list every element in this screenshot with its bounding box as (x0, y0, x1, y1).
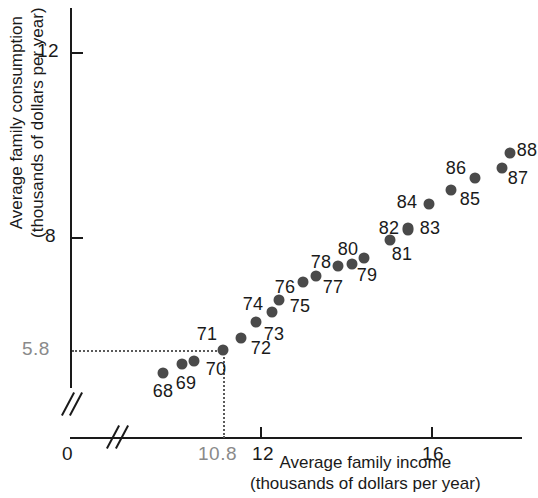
data-point-label-73: 73 (264, 324, 285, 345)
data-point-label-85: 85 (460, 189, 481, 210)
data-point-76 (298, 277, 309, 288)
data-point-83 (403, 223, 414, 234)
data-point-74 (267, 307, 278, 318)
x-axis-title-line1: Average family income (250, 452, 481, 473)
data-point-label-83: 83 (420, 218, 441, 239)
data-point-label-84: 84 (397, 192, 418, 213)
data-point-label-71: 71 (197, 324, 218, 345)
y-tick-mark-8 (72, 237, 83, 239)
data-point-68 (158, 368, 169, 379)
x-tick-mark-12 (260, 427, 262, 438)
y-tick-label-5-8: 5.8 (22, 338, 50, 360)
data-point-label-81: 81 (392, 244, 413, 265)
data-point-69 (177, 359, 188, 370)
data-point-80 (359, 253, 370, 264)
data-point-label-88: 88 (517, 140, 538, 161)
y-tick-mark-12 (72, 52, 83, 54)
data-point-label-74: 74 (243, 294, 264, 315)
y-axis-title: Average family consumption (thousands of… (6, 7, 49, 238)
data-point-label-78: 78 (311, 252, 332, 273)
data-point-label-79: 79 (357, 265, 378, 286)
data-point-70 (189, 356, 200, 367)
x-axis-title-line2: (thousands of dollars per year) (250, 473, 481, 494)
data-point-78 (333, 261, 344, 272)
data-point-label-77: 77 (323, 277, 344, 298)
data-point-85 (446, 185, 457, 196)
y-axis-title-line1: Average family consumption (6, 7, 27, 238)
data-point-label-70: 70 (206, 359, 227, 380)
data-point-71 (218, 345, 229, 356)
data-point-73 (251, 317, 262, 328)
data-point-87 (497, 163, 508, 174)
y-axis-line (70, 8, 72, 388)
data-point-label-69: 69 (176, 373, 197, 394)
data-point-label-68: 68 (153, 381, 174, 402)
x-tick-mark-16 (431, 427, 433, 438)
x-tick-label-10-8: 10.8 (198, 443, 237, 465)
y-axis-title-line2: (thousands of dollars per year) (27, 7, 48, 238)
data-point-label-87: 87 (508, 168, 529, 189)
data-point-label-82: 82 (379, 218, 400, 239)
data-point-88 (505, 148, 516, 159)
data-point-label-86: 86 (446, 158, 467, 179)
x-axis-break-icon (103, 423, 133, 451)
data-point-label-76: 76 (275, 277, 296, 298)
y-axis-break-icon (58, 390, 86, 418)
guide-line-horizontal (72, 350, 224, 352)
data-point-86 (470, 173, 481, 184)
data-point-label-75: 75 (290, 296, 311, 317)
data-point-72 (236, 333, 247, 344)
x-axis-line (70, 437, 522, 439)
data-point-84 (424, 199, 435, 210)
data-point-label-80: 80 (338, 239, 359, 260)
scatter-chart: 12 8 5.8 0 10.8 12 16 686970717273747576… (0, 0, 538, 498)
x-axis-title: Average family income (thousands of doll… (250, 452, 481, 495)
x-tick-label-0: 0 (62, 443, 73, 465)
